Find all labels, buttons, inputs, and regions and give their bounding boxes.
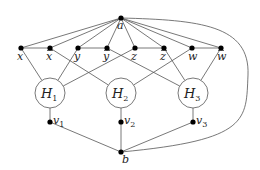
label-x: x [17,50,24,63]
label-w: w [188,50,198,63]
edge-a-xb [50,18,121,48]
label-y: y [73,50,81,63]
label-v3: v3 [196,114,207,129]
node-v2 [118,119,123,124]
label-zb: z [159,50,166,63]
edge-x-H1 [21,48,42,80]
label-xb: x [46,50,53,63]
edge-a-w [121,18,192,48]
node-v1 [47,119,52,124]
label-v1: v1 [53,114,64,129]
label-z: z [130,50,137,63]
label-a: a [117,19,124,32]
label-yb: y [102,50,110,63]
label-b: b [122,153,129,166]
node-v3 [190,119,195,124]
edge-a-zb [121,18,164,48]
edge-a-x [21,18,121,48]
graph-diagram: H1H2H3abxxyyzzwwv1v2v3 [0,0,260,170]
edge-a-y [78,18,121,48]
label-v2: v2 [124,114,135,129]
label-wb: w [217,50,227,63]
edge-a-wb [121,18,221,48]
